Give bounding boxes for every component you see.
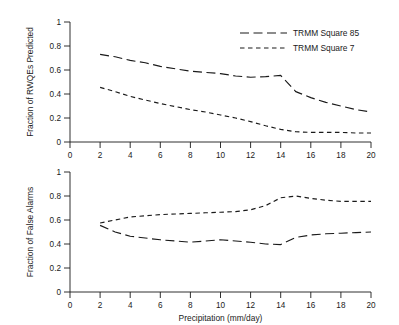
legend-label-square7: TRMM Square 7: [293, 43, 355, 53]
top-series-square85: [100, 54, 371, 112]
figure-container: 0 0.2 0.4 0.6 0.8 1: [0, 0, 399, 325]
top-xtick-9: 18: [336, 151, 346, 160]
top-ytick-4: 0.8: [50, 42, 62, 51]
top-x-tick-labels: 0 2 4 6 8 10 12 14 16 18 20: [68, 151, 376, 160]
top-ytick-0: 0: [56, 138, 61, 147]
bottom-ytick-1: 0.2: [50, 264, 62, 273]
top-panel: 0 0.2 0.4 0.6 0.8 1: [25, 18, 376, 160]
top-ytick-1: 0.2: [50, 114, 62, 123]
bottom-xtick-3: 6: [158, 301, 163, 310]
bottom-ytick-0: 0: [56, 288, 61, 297]
top-y-ticks: [64, 22, 70, 142]
top-series-square7: [100, 87, 371, 133]
bottom-xtick-8: 16: [306, 301, 316, 310]
top-ytick-2: 0.4: [50, 90, 62, 99]
bottom-x-ticks: [70, 292, 371, 298]
bottom-xtick-4: 8: [188, 301, 193, 310]
top-y-tick-labels: 0 0.2 0.4 0.6 0.8 1: [50, 18, 62, 147]
bottom-x-tick-labels: 0 2 4 6 8 10 12 14 16 18 20: [68, 301, 376, 310]
bottom-ytick-5: 1: [56, 168, 61, 177]
chart-svg: 0 0.2 0.4 0.6 0.8 1: [0, 0, 399, 325]
bottom-xtick-5: 10: [216, 301, 226, 310]
bottom-xtick-10: 20: [366, 301, 376, 310]
top-xtick-6: 12: [246, 151, 256, 160]
top-ytick-3: 0.6: [50, 66, 62, 75]
top-y-axis-title: Fraction of RWQEs Predicted: [25, 27, 35, 137]
bottom-y-ticks: [64, 172, 70, 292]
top-xtick-1: 2: [98, 151, 103, 160]
top-xtick-5: 10: [216, 151, 226, 160]
top-xtick-10: 20: [366, 151, 376, 160]
bottom-series-square85: [100, 196, 371, 223]
bottom-xtick-7: 14: [276, 301, 286, 310]
top-xtick-8: 16: [306, 151, 316, 160]
bottom-series-square7: [100, 225, 371, 244]
bottom-x-axis-title: Precipitation (mm/day): [179, 313, 263, 323]
top-xtick-7: 14: [276, 151, 286, 160]
top-ytick-5: 1: [56, 18, 61, 27]
bottom-y-tick-labels: 0 0.2 0.4 0.6 0.8 1: [50, 168, 62, 297]
top-xtick-2: 4: [128, 151, 133, 160]
bottom-xtick-0: 0: [68, 301, 73, 310]
bottom-y-axis-title: Fraction of False Alarms: [25, 187, 35, 277]
top-x-ticks: [70, 142, 371, 148]
bottom-ytick-2: 0.4: [50, 240, 62, 249]
bottom-ytick-3: 0.6: [50, 216, 62, 225]
bottom-xtick-2: 4: [128, 301, 133, 310]
legend-label-square85: TRMM Square 85: [293, 28, 359, 38]
bottom-ytick-4: 0.8: [50, 192, 62, 201]
bottom-xtick-6: 12: [246, 301, 256, 310]
legend: TRMM Square 85 TRMM Square 7: [240, 28, 359, 53]
top-xtick-3: 6: [158, 151, 163, 160]
top-xtick-4: 8: [188, 151, 193, 160]
bottom-panel: 0 0.2 0.4 0.6 0.8 1 0: [25, 168, 376, 323]
bottom-xtick-9: 18: [336, 301, 346, 310]
bottom-xtick-1: 2: [98, 301, 103, 310]
top-xtick-0: 0: [68, 151, 73, 160]
